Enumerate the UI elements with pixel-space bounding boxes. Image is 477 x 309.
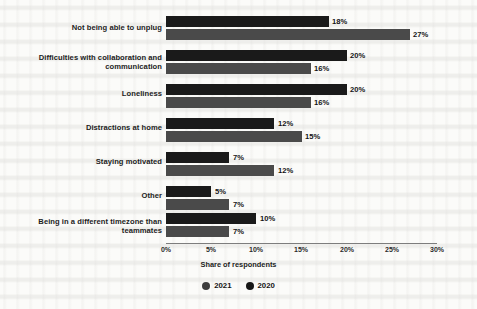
bar-2021 bbox=[166, 213, 256, 224]
bar-2020 bbox=[166, 165, 274, 176]
bar-value-label: 7% bbox=[233, 199, 244, 210]
x-axis-tick: 15% bbox=[294, 246, 308, 253]
category-label: Other bbox=[141, 191, 162, 200]
x-axis-line bbox=[166, 243, 437, 244]
category-label: Distractions at home bbox=[86, 123, 162, 132]
category-label: Being in a different timezone than teamm… bbox=[38, 217, 162, 236]
bar-2021 bbox=[166, 16, 329, 27]
legend-marker-icon bbox=[246, 282, 254, 290]
x-axis-tick: 20% bbox=[340, 246, 354, 253]
bar-value-label: 18% bbox=[332, 16, 347, 27]
category-label: Loneliness bbox=[122, 89, 162, 98]
bar-value-label: 20% bbox=[350, 50, 365, 61]
x-axis-tick: 10% bbox=[249, 246, 263, 253]
bar-2020 bbox=[166, 131, 302, 142]
bar-value-label: 12% bbox=[278, 118, 293, 129]
legend-label: 2020 bbox=[258, 281, 275, 290]
bar-value-label: 16% bbox=[314, 63, 329, 74]
x-axis-tick: 5% bbox=[206, 246, 216, 253]
remote-work-challenges-bar-chart: Not being able to unplug Difficulties wi… bbox=[0, 0, 477, 309]
legend-item-2020[interactable]: 2020 bbox=[246, 281, 275, 290]
bar-2021 bbox=[166, 118, 274, 129]
bar-value-label: 7% bbox=[233, 152, 244, 163]
bar-value-label: 5% bbox=[215, 186, 226, 197]
x-axis-title: Share of respondents bbox=[0, 260, 477, 269]
bar-value-label: 27% bbox=[413, 29, 428, 40]
bar-2020 bbox=[166, 97, 311, 108]
bar-2020 bbox=[166, 199, 229, 210]
bar-2020 bbox=[166, 29, 410, 40]
legend-marker-icon bbox=[202, 282, 210, 290]
x-axis-tick: 25% bbox=[385, 246, 399, 253]
bar-value-label: 20% bbox=[350, 84, 365, 95]
bar-2021 bbox=[166, 84, 347, 95]
bar-2021 bbox=[166, 50, 347, 61]
legend-label: 2021 bbox=[214, 281, 231, 290]
bar-value-label: 12% bbox=[278, 165, 293, 176]
category-label: Not being able to unplug bbox=[72, 23, 162, 32]
bar-value-label: 7% bbox=[233, 226, 244, 237]
category-label: Staying motivated bbox=[96, 157, 162, 166]
bar-value-label: 15% bbox=[305, 131, 320, 142]
bar-2021 bbox=[166, 152, 229, 163]
x-axis-tick: 30% bbox=[430, 246, 444, 253]
chart-plot-area: Not being able to unplug Difficulties wi… bbox=[0, 0, 477, 309]
x-axis-tick: 0% bbox=[161, 246, 171, 253]
bar-value-label: 16% bbox=[314, 97, 329, 108]
bar-2020 bbox=[166, 226, 229, 237]
legend-item-2021[interactable]: 2021 bbox=[202, 281, 231, 290]
chart-legend: 2021 2020 bbox=[0, 281, 477, 290]
bar-2020 bbox=[166, 63, 311, 74]
bar-value-label: 10% bbox=[260, 213, 275, 224]
bar-2021 bbox=[166, 186, 211, 197]
category-label: Difficulties with collaboration and comm… bbox=[39, 53, 162, 72]
